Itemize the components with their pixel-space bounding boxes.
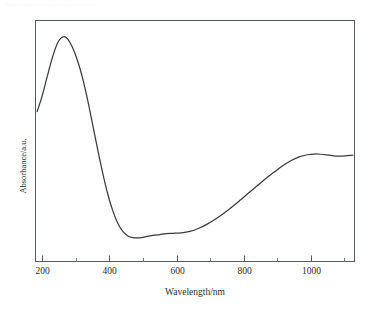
x-axis-title: Wavelength/nm <box>165 287 226 297</box>
x-axis-minor-ticks <box>77 258 345 262</box>
x-tick-label: 1000 <box>302 266 321 276</box>
x-axis-tick-labels: 2004006008001000 <box>35 266 321 276</box>
x-tick-label: 600 <box>170 266 185 276</box>
x-tick-label: 200 <box>35 266 50 276</box>
y-axis-title: Absorbance/a.u. <box>18 138 28 193</box>
chart-figure: — —— ——— —— ———— 2004006008001000 Wavele… <box>0 0 375 313</box>
plot-frame-border <box>36 21 355 262</box>
spectrum-curve <box>37 37 353 238</box>
absorbance-spectrum-plot: 2004006008001000 Wavelength/nm Absorbanc… <box>0 0 375 313</box>
x-axis-major-ticks <box>43 256 312 262</box>
x-tick-label: 400 <box>102 266 117 276</box>
data-series-group <box>37 37 353 238</box>
x-tick-label: 800 <box>237 266 252 276</box>
